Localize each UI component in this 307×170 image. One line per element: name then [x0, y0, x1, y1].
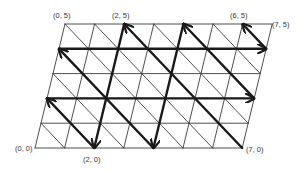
grid-diagonal-line: [95, 24, 119, 49]
path-arrow: [153, 24, 183, 148]
path-arrow: [94, 24, 124, 148]
grid-diagonal-line: [213, 24, 237, 49]
path-arrow: [183, 24, 254, 98]
grid-diagonal-line: [154, 24, 178, 49]
grid-diagonal-line: [159, 123, 183, 148]
grid-column-line: [213, 24, 243, 148]
grid-column-line: [242, 24, 272, 148]
grid-diagonal-line: [53, 74, 77, 99]
coordinate-label: (2, 0): [83, 155, 101, 164]
grid-column-line: [35, 24, 65, 148]
path-arrow: [243, 24, 267, 49]
grid-diagonal-line: [225, 98, 249, 123]
grid-diagonal-line: [100, 123, 124, 148]
grid-diagonal-line: [118, 49, 142, 74]
grid-diagonal-line: [89, 49, 113, 74]
coordinate-label: (2, 5): [112, 11, 130, 20]
coordinate-label: (7, 5): [272, 20, 290, 29]
grid-diagonal-line: [237, 49, 261, 74]
coordinate-label: (0, 0): [15, 144, 33, 153]
coordinate-label: (6, 5): [230, 11, 248, 20]
grid-diagonal-line: [177, 49, 201, 74]
grid-diagonal-line: [142, 74, 166, 99]
coordinate-labels: (0, 0)(2, 0)(7, 0)(0, 5)(2, 5)(6, 5)(7, …: [15, 11, 290, 164]
grid-column-line: [65, 24, 95, 148]
path-arrow: [124, 24, 242, 148]
grid-diagonal-line: [41, 123, 65, 148]
coordinate-label: (7, 0): [246, 145, 264, 154]
grid-diagonal-line: [201, 74, 225, 99]
grid-diagonal-line: [112, 74, 136, 99]
grid-diagonal-line: [136, 98, 160, 123]
grid-diagonal-line: [165, 98, 189, 123]
grid-diagonal-line: [65, 24, 89, 49]
diagram-canvas: (0, 0)(2, 0)(7, 0)(0, 5)(2, 5)(6, 5)(7, …: [0, 0, 307, 170]
grid-diagonal-line: [189, 123, 213, 148]
grid-column-line: [124, 24, 154, 148]
grid-diagonal-line: [77, 98, 101, 123]
coordinate-label: (0, 5): [53, 11, 71, 20]
grid-column-line: [183, 24, 213, 148]
grid-lines: [35, 24, 272, 148]
lattice-diagram: (0, 0)(2, 0)(7, 0)(0, 5)(2, 5)(6, 5)(7, …: [0, 0, 307, 170]
